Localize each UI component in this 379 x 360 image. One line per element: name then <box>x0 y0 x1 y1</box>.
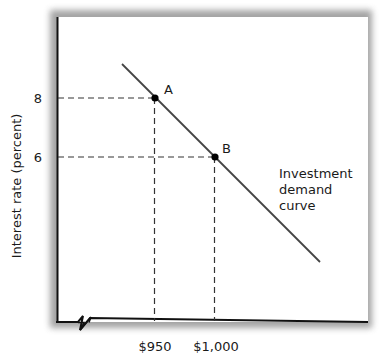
y-axis-title: Interest rate (percent) <box>9 114 24 259</box>
y-tick-8: 8 <box>34 91 42 106</box>
point-b-label: B <box>222 141 231 156</box>
curve-label-line-2: demand <box>279 182 332 197</box>
x-tick-950: $950 <box>138 339 171 354</box>
investment-demand-chart: A B 8 6 $950 $1,000 Interest rate (perce… <box>0 0 379 360</box>
point-a <box>151 94 158 101</box>
point-a-label: A <box>164 82 173 97</box>
x-tick-1000: $1,000 <box>193 339 239 354</box>
curve-label-line-1: Investment <box>279 166 353 181</box>
point-b <box>211 153 218 160</box>
y-tick-6: 6 <box>34 150 42 165</box>
curve-label-line-3: curve <box>279 198 315 213</box>
